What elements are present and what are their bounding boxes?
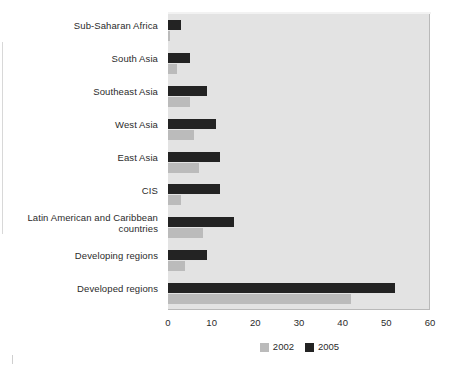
x-tick-label-50: 50 — [381, 317, 392, 328]
category-label-7: Developing regions — [0, 250, 163, 262]
x-tick-label-30: 30 — [294, 317, 305, 328]
x-tick-label-0: 0 — [165, 317, 170, 328]
legend-swatch-2002 — [260, 343, 269, 352]
category-label-0: Sub-Saharan Africa — [0, 20, 163, 32]
bar-chart-figure: Sub-Saharan AfricaSouth AsiaSoutheast As… — [0, 0, 456, 369]
category-label-2: Southeast Asia — [0, 86, 163, 98]
plot-area — [168, 14, 430, 310]
legend-label-2005: 2005 — [318, 342, 339, 352]
legend-item-2005: 2005 — [305, 342, 339, 352]
bar-2005-5 — [168, 184, 220, 194]
bar-2002-1 — [168, 64, 177, 74]
category-label-5: CIS — [0, 185, 163, 197]
bar-2005-3 — [168, 119, 216, 129]
x-tick-label-20: 20 — [250, 317, 261, 328]
bar-2002-0 — [168, 31, 170, 41]
category-label-1: South Asia — [0, 53, 163, 65]
category-label-8: Developed regions — [0, 283, 163, 295]
category-label-3: West Asia — [0, 119, 163, 131]
bar-2002-6 — [168, 228, 203, 238]
bar-2005-4 — [168, 152, 220, 162]
legend-swatch-2005 — [305, 343, 314, 352]
bar-2005-8 — [168, 283, 395, 293]
category-label-6: Latin American and Caribbean countries — [0, 212, 163, 235]
bar-2002-3 — [168, 130, 194, 140]
x-tick-label-10: 10 — [206, 317, 217, 328]
x-tick-label-60: 60 — [425, 317, 436, 328]
bar-2005-7 — [168, 250, 207, 260]
category-label-4: East Asia — [0, 152, 163, 164]
x-tick-label-40: 40 — [337, 317, 348, 328]
bar-2002-4 — [168, 163, 199, 173]
bar-2002-7 — [168, 261, 185, 271]
x-axis: 0102030405060 — [168, 311, 431, 331]
bar-2002-5 — [168, 195, 181, 205]
bar-2005-6 — [168, 217, 234, 227]
category-axis-labels: Sub-Saharan AfricaSouth AsiaSoutheast As… — [0, 14, 163, 310]
bar-2005-1 — [168, 53, 190, 63]
chart-legend: 20022005 — [168, 340, 431, 354]
bar-2002-2 — [168, 97, 190, 107]
bar-rows — [168, 14, 429, 309]
bar-2005-0 — [168, 20, 181, 30]
bar-2005-2 — [168, 86, 207, 96]
legend-item-2002: 2002 — [260, 342, 294, 352]
scan-edge-artifact-lower — [12, 355, 13, 364]
bar-2002-8 — [168, 294, 351, 304]
legend-label-2002: 2002 — [273, 342, 294, 352]
